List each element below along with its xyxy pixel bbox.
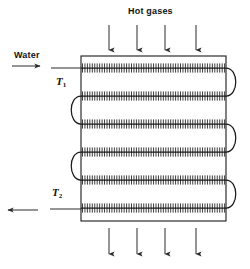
t1-subscript: 1 [63,81,67,89]
finned-tube-bank [71,63,236,212]
water-outlet-arrow [8,209,81,210]
t2-symbol: T [52,186,59,198]
hot-gases-label: Hot gases [128,6,173,16]
u-bend-left-4 [71,152,81,180]
u-bend-right-3 [226,124,236,152]
t1-symbol: T [56,75,63,87]
vessel-outline [81,56,226,221]
water-inlet-arrow [12,66,81,68]
u-bend-right-5 [226,180,236,208]
figure-caption [0,261,250,269]
t2-subscript: 2 [59,192,63,200]
t2-label: T2 [52,186,62,200]
hot-gas-arrows-bottom [109,228,196,254]
water-label: Water [14,50,40,60]
u-bend-right-1 [226,68,236,96]
t1-label: T1 [56,75,66,89]
hot-gas-arrows-top [109,25,196,50]
u-bend-left-2 [71,96,81,124]
heat-exchanger-diagram [0,0,250,269]
